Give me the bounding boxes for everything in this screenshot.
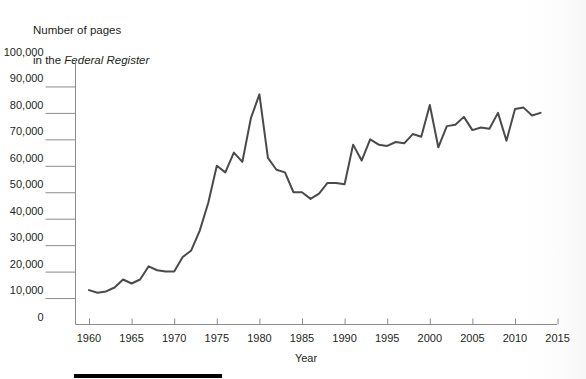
y-axis-tick-marks bbox=[46, 87, 76, 299]
y-axis-tick-label: 60,000 bbox=[0, 152, 44, 164]
y-axis-tick-label: 20,000 bbox=[0, 258, 44, 270]
y-axis-tick-label: 40,000 bbox=[0, 205, 44, 217]
y-axis-tick-label: 0 bbox=[0, 311, 44, 323]
y-axis-tick-label: 100,000 bbox=[0, 46, 44, 58]
x-axis-tick-label: 1960 bbox=[66, 332, 112, 344]
x-axis-tick-label: 1995 bbox=[364, 332, 410, 344]
y-axis-tick-label: 10,000 bbox=[0, 284, 44, 296]
y-axis-tick-label: 90,000 bbox=[0, 72, 44, 84]
x-axis-tick-label: 2015 bbox=[535, 332, 581, 344]
bottom-rule bbox=[74, 374, 222, 378]
x-axis-tick-label: 1970 bbox=[151, 332, 197, 344]
x-axis-tick-label: 1990 bbox=[322, 332, 368, 344]
y-axis-tick-label: 50,000 bbox=[0, 178, 44, 190]
y-axis-tick-label: 70,000 bbox=[0, 125, 44, 137]
y-axis-tick-label: 80,000 bbox=[0, 99, 44, 111]
x-axis-tick-label: 1975 bbox=[194, 332, 240, 344]
x-axis-tick-marks bbox=[90, 319, 559, 325]
x-axis-tick-label: 2000 bbox=[407, 332, 453, 344]
x-axis-tick-label: 2005 bbox=[449, 332, 495, 344]
x-axis-tick-label: 2010 bbox=[492, 332, 538, 344]
data-series-line bbox=[89, 94, 541, 292]
x-axis-tick-label: 1965 bbox=[109, 332, 155, 344]
chart-svg bbox=[0, 0, 586, 379]
x-axis-title: Year bbox=[246, 352, 366, 364]
y-axis-tick-label: 30,000 bbox=[0, 231, 44, 243]
x-axis-tick-label: 1980 bbox=[236, 332, 282, 344]
x-axis-tick-label: 1985 bbox=[279, 332, 325, 344]
chart-plot-area: 100,00090,00080,00070,00060,00050,00040,… bbox=[0, 0, 586, 379]
